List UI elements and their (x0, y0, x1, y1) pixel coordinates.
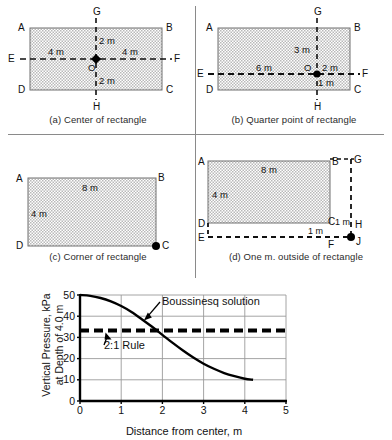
chart-ytick-50: 50 (63, 289, 75, 301)
panel-c-diagram (0, 141, 196, 253)
panel-a-center-of-rectangle: A B D C G H E F O 2 m 2 m 4 m 4 m (a) Ce… (0, 0, 196, 140)
figure-page: A B D C G H E F O 2 m 2 m 4 m 4 m (a) Ce… (0, 0, 392, 440)
panel-c-corner-of-rectangle: A B D C 8 m 4 m (c) Corner of rectangle (0, 141, 196, 281)
panel-b-load-point-marker (313, 70, 320, 77)
chart-xtick-0: 0 (77, 404, 83, 416)
pressure-distribution-chart: 01020304050012345 Boussinesq solution2:1… (0, 283, 392, 440)
chart-xtick-2: 2 (159, 404, 165, 416)
panel-b-diagram (196, 0, 392, 115)
chart-xtick-1: 1 (118, 404, 124, 416)
chart-xlabel: Distance from center, m (126, 425, 242, 437)
chart-ytick-0: 0 (69, 395, 75, 407)
chart-svg: 01020304050012345 Boussinesq solution2:1… (0, 283, 392, 440)
panel-d-diagram (196, 141, 392, 253)
chart-annotation-two-to-one-rule: 2:1 Rule (104, 339, 145, 351)
chart-ytick-40: 40 (63, 310, 75, 322)
chart-xtick-5: 5 (283, 404, 289, 416)
panel-d-load-point-marker (347, 233, 355, 241)
panel-b-caption: (b) Quarter point of rectangle (196, 114, 392, 125)
chart-ytick-10: 10 (63, 373, 75, 385)
panel-c-load-point-marker (152, 242, 160, 250)
panel-a-caption: (a) Center of rectangle (0, 114, 196, 125)
chart-tick-labels: 01020304050012345 (63, 289, 289, 416)
panel-b-quarter-point: A B D C G H E F O 3 m 1 m 6 m 2 m (b) Qu… (196, 0, 392, 140)
panel-d-caption: (d) One m. outside of rectangle (198, 251, 392, 262)
chart-annotations: Boussinesq solution2:1 Rule (104, 295, 260, 351)
chart-xtick-3: 3 (201, 404, 207, 416)
panel-a-diagram (0, 0, 196, 115)
panel-c-caption: (c) Corner of rectangle (0, 251, 196, 262)
rectangle-panels: A B D C G H E F O 2 m 2 m 4 m 4 m (a) Ce… (0, 0, 392, 283)
chart-ylabel-line1: Vertical Pressure, kPa (40, 293, 52, 396)
chart-ylabel-line2: at Depth of 4.0 m (53, 304, 65, 385)
chart-ytick-20: 20 (63, 352, 75, 364)
chart-xtick-4: 4 (242, 404, 248, 416)
chart-annotation-boussinesq: Boussinesq solution (162, 295, 260, 307)
panel-d-one-m-outside: A B D C G H E F J 8 m 4 m 1 m 1 m (d) On… (196, 141, 392, 281)
chart-ytick-30: 30 (63, 331, 75, 343)
